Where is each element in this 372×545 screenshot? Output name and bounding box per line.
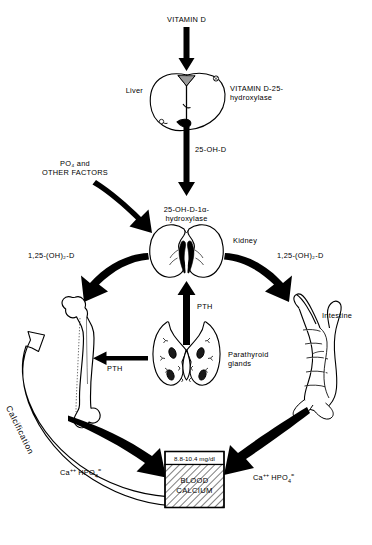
bone-illustration bbox=[62, 297, 100, 428]
arrow-vitamin-d-to-liver bbox=[179, 27, 195, 71]
calcium-charge-left: ++ bbox=[70, 467, 76, 473]
label-1alpha-hydroxylase: 25-OH-D-1α- hydroxylase bbox=[164, 205, 210, 224]
phosphate-symbol-right: HPO bbox=[271, 473, 288, 482]
calcium-symbol-left: Ca bbox=[60, 468, 70, 477]
label-ca-hpo4-left: Ca++HPO4= bbox=[60, 466, 101, 481]
arrow-calcitriol-to-bone bbox=[81, 253, 149, 302]
phosphate-symbol-left: HPO bbox=[78, 468, 95, 477]
arrow-intestine-to-blood-calcium bbox=[224, 407, 310, 475]
arrow-pth-to-bone bbox=[93, 352, 148, 366]
label-kidney: Kidney bbox=[233, 236, 257, 245]
arrow-25-oh-d bbox=[178, 125, 195, 196]
label-25-oh-d: 25-OH-D bbox=[195, 145, 226, 154]
phosphate-charge-right: = bbox=[291, 472, 294, 478]
blood-calcium-title: BLOOD CALCIUM bbox=[166, 476, 223, 495]
label-liver: Liver bbox=[126, 86, 143, 95]
kidney-illustration bbox=[150, 225, 223, 277]
phosphate-charge-left: = bbox=[98, 467, 101, 473]
label-pth-vertical: PTH bbox=[197, 302, 213, 311]
arrow-po4-other-factors bbox=[93, 180, 153, 233]
blood-calcium-range: 8.8-10.4 mg/dl bbox=[166, 453, 223, 464]
label-intestine: Intestine bbox=[322, 311, 352, 320]
phosphate-sub-left: 4 bbox=[95, 473, 98, 479]
label-po4-other-factors: PO₄ and OTHER FACTORS bbox=[42, 159, 108, 178]
liver-illustration bbox=[150, 73, 225, 130]
arrow-pth-to-kidney bbox=[178, 281, 196, 345]
calcium-charge-right: ++ bbox=[263, 472, 269, 478]
label-parathyroid-glands: Parathyroid glands bbox=[228, 350, 269, 369]
label-calcitriol-left: 1,25-(OH)₂-D bbox=[28, 251, 75, 260]
label-calcitriol-right: 1,25-(OH)₂-D bbox=[277, 251, 324, 260]
label-vitamin-d: VITAMIN D bbox=[167, 15, 206, 24]
calcium-symbol-right: Ca bbox=[253, 473, 263, 482]
label-pth-horizontal: PTH bbox=[107, 364, 123, 373]
vitamin-d-calcium-diagram: VITAMIN D Liver VITAMIN D-25- hydroxylas… bbox=[0, 0, 372, 545]
label-ca-hpo4-right: Ca++HPO4= bbox=[253, 471, 294, 486]
label-vitamin-d-25-hydroxylase: VITAMIN D-25- hydroxylase bbox=[230, 84, 283, 103]
phosphate-sub-right: 4 bbox=[288, 478, 291, 484]
